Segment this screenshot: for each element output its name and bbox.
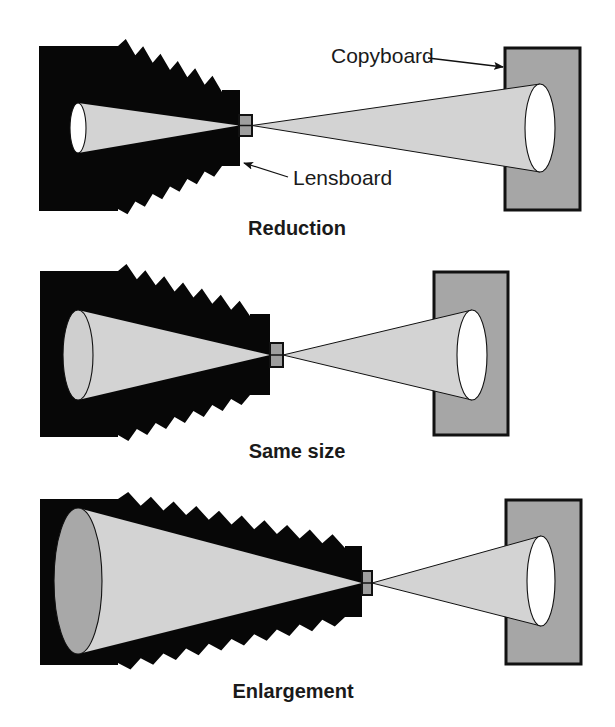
copy-subject-ellipse <box>525 84 555 172</box>
panel-same-size <box>40 264 508 441</box>
caption-enlargement: Enlargement <box>232 680 353 702</box>
film-image-ellipse <box>54 508 102 654</box>
lensboard-callout: Lensboard <box>244 163 392 189</box>
copy-subject-ellipse <box>527 536 555 626</box>
camera-reproduction-diagram: Copyboard Lensboard Reduction Same size … <box>0 0 615 727</box>
subject-light-cone <box>252 84 540 172</box>
film-image-ellipse <box>70 103 86 153</box>
copy-subject-ellipse <box>457 310 487 400</box>
lensboard-label: Lensboard <box>293 166 392 189</box>
caption-reduction: Reduction <box>248 217 346 239</box>
copyboard-label: Copyboard <box>331 44 434 67</box>
lensboard-arrow-icon <box>244 163 288 177</box>
subject-light-cone <box>283 310 472 400</box>
copyboard-arrow-icon <box>428 58 503 67</box>
caption-same-size: Same size <box>249 440 346 462</box>
subject-light-cone <box>372 536 541 626</box>
copyboard-callout: Copyboard <box>331 44 503 67</box>
panel-enlargement <box>40 492 581 670</box>
film-image-ellipse <box>63 310 93 400</box>
